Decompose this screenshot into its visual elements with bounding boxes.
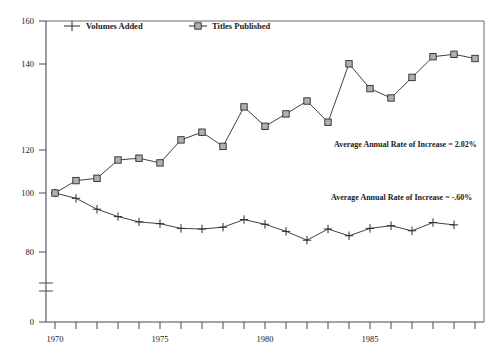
y-tick-label-0: 0 bbox=[30, 317, 34, 327]
plot-frame bbox=[46, 21, 484, 322]
chart-annotations: Average Annual Rate of Increase = 2.02%A… bbox=[331, 140, 477, 202]
legend-item-volumes-added[interactable]: Volumes Added bbox=[64, 21, 143, 31]
y-tick-label-100: 100 bbox=[21, 188, 34, 198]
square-marker-icon bbox=[304, 98, 310, 104]
square-marker-icon bbox=[346, 61, 352, 67]
square-marker-icon bbox=[388, 95, 394, 101]
y-tick-label-160: 160 bbox=[21, 16, 34, 26]
square-marker-icon bbox=[195, 23, 201, 29]
y-tick-label-120: 120 bbox=[21, 145, 34, 155]
x-tick-label-1975: 1975 bbox=[152, 334, 169, 344]
square-marker-icon bbox=[367, 85, 373, 91]
square-marker-icon bbox=[94, 175, 100, 181]
square-marker-icon bbox=[115, 157, 121, 163]
series-titles-published bbox=[52, 51, 478, 196]
annotation-1: Average Annual Rate of Increase = 2.02% bbox=[334, 140, 477, 149]
chart-legend: Volumes AddedTitles Published bbox=[64, 21, 270, 31]
square-marker-icon bbox=[73, 177, 79, 183]
annotation-2: Average Annual Rate of Increase = -.60% bbox=[331, 193, 472, 202]
y-tick-label-140: 140 bbox=[21, 59, 34, 69]
x-tick-label-1980: 1980 bbox=[257, 334, 274, 344]
line-chart: 160 140 120 100 80 0 1970197519801985 Vo… bbox=[0, 0, 504, 351]
square-marker-icon bbox=[262, 123, 268, 129]
square-marker-icon bbox=[472, 55, 478, 61]
square-marker-icon bbox=[199, 129, 205, 135]
y-tick-label-80: 80 bbox=[26, 247, 35, 257]
square-marker-icon bbox=[241, 104, 247, 110]
legend-item-titles-published[interactable]: Titles Published bbox=[189, 21, 270, 31]
legend-label: Volumes Added bbox=[86, 21, 143, 31]
x-tick-label-1985: 1985 bbox=[362, 334, 379, 344]
square-marker-icon bbox=[178, 137, 184, 143]
chart-container: 160 140 120 100 80 0 1970197519801985 Vo… bbox=[0, 0, 504, 351]
square-marker-icon bbox=[451, 51, 457, 57]
square-marker-icon bbox=[409, 74, 415, 80]
square-marker-icon bbox=[136, 155, 142, 161]
x-axis-tick-labels: 1970197519801985 bbox=[47, 334, 379, 344]
square-marker-icon bbox=[52, 190, 58, 196]
x-axis-ticks bbox=[55, 322, 475, 329]
square-marker-icon bbox=[325, 119, 331, 125]
y-axis-ticks bbox=[39, 21, 46, 322]
square-marker-icon bbox=[157, 160, 163, 166]
legend-label: Titles Published bbox=[212, 21, 270, 31]
x-tick-label-1970: 1970 bbox=[47, 334, 64, 344]
square-marker-icon bbox=[430, 54, 436, 60]
square-marker-icon bbox=[283, 111, 289, 117]
square-marker-icon bbox=[220, 143, 226, 149]
